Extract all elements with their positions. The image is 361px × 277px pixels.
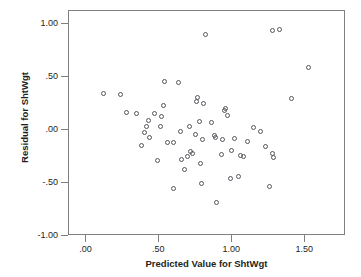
data-point <box>165 140 170 145</box>
data-point <box>203 32 208 37</box>
data-point <box>214 200 219 205</box>
x-axis-tick <box>304 235 305 242</box>
data-point <box>182 167 187 172</box>
data-point <box>241 154 246 159</box>
data-point <box>263 144 268 149</box>
data-point <box>223 106 228 111</box>
data-point <box>193 132 198 137</box>
data-point <box>258 129 263 134</box>
data-point <box>176 80 181 85</box>
data-point <box>198 161 203 166</box>
data-points-layer <box>69 11 344 234</box>
data-point <box>152 111 157 116</box>
data-point <box>161 103 166 108</box>
data-point <box>139 143 144 148</box>
y-axis-tick <box>61 182 68 183</box>
data-point <box>229 148 234 153</box>
data-point <box>199 181 204 186</box>
data-point <box>277 27 282 32</box>
data-point <box>178 129 183 134</box>
data-point <box>179 157 184 162</box>
data-point <box>142 130 147 135</box>
data-point <box>197 119 202 124</box>
data-point <box>228 176 233 181</box>
data-point <box>124 110 129 115</box>
x-axis-tick <box>85 235 86 242</box>
y-axis-tick <box>61 129 68 130</box>
data-point <box>155 158 160 163</box>
data-point <box>159 114 164 119</box>
data-point <box>171 186 176 191</box>
data-point <box>162 79 167 84</box>
x-axis-title: Predicted Value for ShtWgt <box>68 258 345 269</box>
data-point <box>146 118 151 123</box>
data-point <box>144 124 149 129</box>
y-axis-tick <box>61 76 68 77</box>
data-point <box>195 95 200 100</box>
data-point <box>219 152 224 157</box>
data-point <box>200 137 205 142</box>
data-point <box>232 136 237 141</box>
data-point <box>236 174 241 179</box>
data-point <box>190 151 195 156</box>
data-point <box>209 120 214 125</box>
data-point <box>118 92 123 97</box>
data-point <box>271 155 276 160</box>
y-axis-tick <box>61 23 68 24</box>
x-axis-tick-label: .50 <box>134 244 182 254</box>
x-axis-tick <box>158 235 159 242</box>
data-point <box>147 135 152 140</box>
data-point <box>270 28 275 33</box>
data-point <box>134 111 139 116</box>
plot-area <box>68 10 345 235</box>
scatter-plot-figure: -1.00-.50.00.501.00 .00.501.001.50 Resid… <box>0 0 361 277</box>
data-point <box>171 140 176 145</box>
data-point <box>267 184 272 189</box>
data-point <box>220 137 225 142</box>
data-point <box>213 135 218 140</box>
data-point <box>289 96 294 101</box>
data-point <box>101 91 106 96</box>
x-axis-tick-label: .00 <box>61 244 109 254</box>
data-point <box>245 139 250 144</box>
data-point <box>306 65 311 70</box>
data-point <box>225 113 230 118</box>
data-point <box>187 124 192 129</box>
x-axis-tick-label: 1.50 <box>280 244 328 254</box>
y-axis-tick-label: 1.00 <box>0 18 58 28</box>
data-point <box>251 125 256 130</box>
y-axis-title: Residual for ShtWgt <box>19 38 30 198</box>
data-point <box>185 154 190 159</box>
data-point <box>158 124 163 129</box>
x-axis-tick <box>231 235 232 242</box>
data-point <box>201 101 206 106</box>
data-point <box>194 99 199 104</box>
x-axis-tick-label: 1.00 <box>207 244 255 254</box>
y-axis-tick-label: -1.00 <box>0 230 58 240</box>
y-axis-tick <box>61 235 68 236</box>
